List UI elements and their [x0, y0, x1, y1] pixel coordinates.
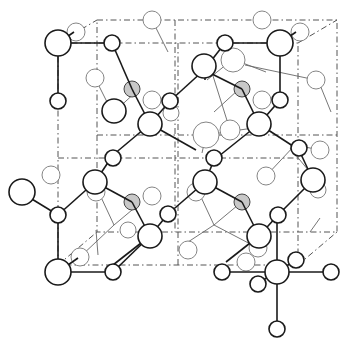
- crystal-structure-diagram: [0, 0, 349, 347]
- front-bonds: [22, 32, 331, 328]
